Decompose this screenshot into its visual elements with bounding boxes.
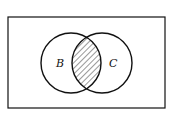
venn-diagram: B C (0, 0, 171, 114)
venn-svg: B C (0, 0, 171, 114)
set-c-label: C (109, 57, 118, 70)
set-b-label: B (55, 57, 64, 70)
